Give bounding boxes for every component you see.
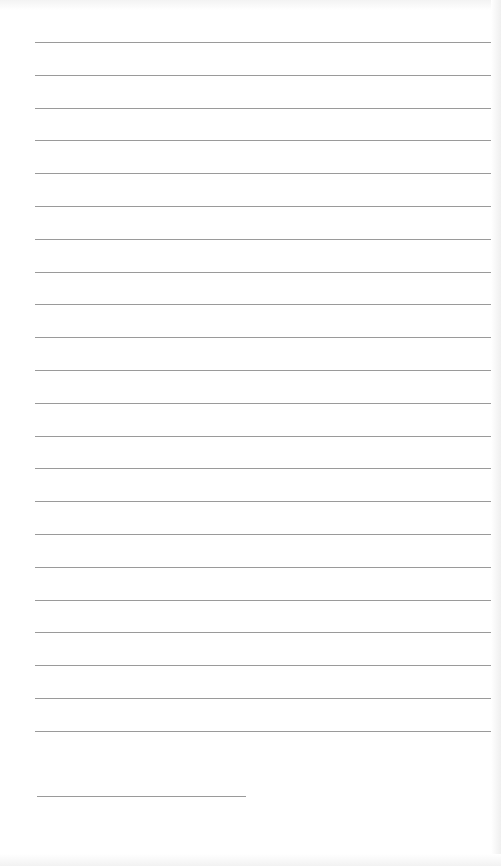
ruled-line	[35, 173, 491, 174]
paper-right-edge	[491, 0, 501, 866]
paper-top-edge	[0, 0, 501, 10]
ruled-line	[35, 436, 491, 437]
ruled-line	[35, 468, 491, 469]
ruled-line	[35, 632, 491, 633]
ruled-line	[35, 501, 491, 502]
ruled-line	[35, 534, 491, 535]
ruled-line	[35, 337, 491, 338]
ruled-line	[35, 665, 491, 666]
ruled-line	[35, 370, 491, 371]
ruled-line	[35, 698, 491, 699]
ruled-line	[35, 567, 491, 568]
ruled-line	[35, 239, 491, 240]
ruled-line	[35, 304, 491, 305]
ruled-line	[35, 206, 491, 207]
ruled-line	[35, 600, 491, 601]
ruled-line	[35, 108, 491, 109]
ruled-line	[35, 140, 491, 141]
ruled-line	[35, 75, 491, 76]
paper-bottom-edge	[0, 854, 501, 866]
ruled-line	[35, 403, 491, 404]
ruled-line	[35, 42, 491, 43]
ruled-line	[35, 731, 491, 732]
lined-paper	[0, 0, 501, 866]
signature-line	[37, 796, 246, 797]
ruled-line	[35, 272, 491, 273]
